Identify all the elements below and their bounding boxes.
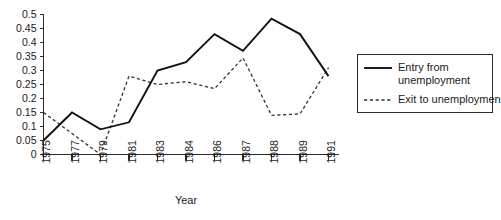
legend: Entry from unemployment Exit to unemploy… bbox=[358, 55, 501, 113]
y-tick-label: 0.15 bbox=[16, 106, 37, 118]
x-tick-label: 1975 bbox=[40, 140, 52, 164]
x-tick-label: 1986 bbox=[211, 140, 223, 164]
chart-canvas: 00.050.10.150.20.250.30.350.40.450.5 197… bbox=[0, 0, 501, 220]
y-tick-label: 0 bbox=[31, 148, 37, 160]
x-tick-label: 1984 bbox=[183, 140, 195, 164]
series-exit-to-unemployment-line bbox=[44, 58, 329, 155]
y-tick-group: 00.050.10.150.20.250.30.350.40.450.5 bbox=[16, 8, 43, 160]
line-chart: 00.050.10.150.20.250.30.350.40.450.5 197… bbox=[0, 0, 501, 220]
legend-label-exit-line1: Exit to unemployment bbox=[398, 93, 501, 105]
y-tick-label: 0.25 bbox=[16, 78, 37, 90]
x-tick-label: 1983 bbox=[154, 140, 166, 164]
data-series-group bbox=[44, 19, 329, 155]
legend-label-entry-line2: unemployment bbox=[398, 74, 470, 86]
y-tick-label: 0.1 bbox=[22, 120, 37, 132]
x-tick-label: 1987 bbox=[240, 140, 252, 164]
y-tick-label: 0.05 bbox=[16, 134, 37, 146]
x-axis: 1975197719791981198319841986198719881989… bbox=[40, 140, 338, 164]
x-tick-label: 1989 bbox=[297, 140, 309, 164]
x-tick-label: 1977 bbox=[69, 140, 81, 164]
y-tick-label: 0.4 bbox=[22, 36, 37, 48]
x-tick-label: 1979 bbox=[97, 140, 109, 164]
y-tick-label: 0.3 bbox=[22, 64, 37, 76]
y-axis: 00.050.10.150.20.250.30.350.40.450.5 bbox=[16, 8, 43, 160]
x-axis-title: Year bbox=[175, 194, 198, 206]
x-tick-label: 1981 bbox=[126, 140, 138, 164]
y-tick-label: 0.5 bbox=[22, 8, 37, 20]
series-entry-from-unemployment-line bbox=[44, 19, 329, 141]
x-tick-group: 1975197719791981198319841986198719881989… bbox=[40, 140, 337, 164]
x-tick-label: 1988 bbox=[268, 140, 280, 164]
y-tick-label: 0.35 bbox=[16, 50, 37, 62]
legend-label-entry-line1: Entry from bbox=[398, 61, 449, 73]
y-tick-label: 0.2 bbox=[22, 92, 37, 104]
x-tick-label: 1991 bbox=[325, 140, 337, 164]
y-tick-label: 0.45 bbox=[16, 22, 37, 34]
